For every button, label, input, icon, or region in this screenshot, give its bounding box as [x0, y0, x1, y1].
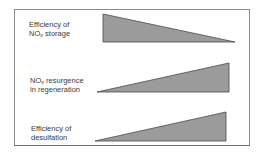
decreasing-wedge [103, 14, 235, 42]
increasing-wedge [95, 112, 226, 141]
increasing-wedge [97, 63, 229, 92]
wedge-layer [0, 0, 261, 153]
